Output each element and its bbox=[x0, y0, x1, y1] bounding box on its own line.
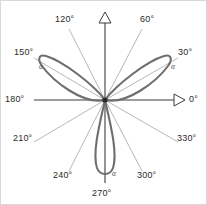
alpha-marker-270: α bbox=[112, 170, 116, 178]
angle-label-150: 150° bbox=[14, 48, 33, 57]
angle-label-0: 0° bbox=[189, 95, 198, 104]
angle-label-270: 270° bbox=[92, 189, 111, 198]
angle-label-30: 30° bbox=[178, 48, 192, 57]
origin-point bbox=[102, 97, 107, 102]
alpha-marker-30: α bbox=[171, 63, 175, 71]
up-arrow-icon bbox=[99, 12, 111, 23]
right-arrow-icon bbox=[174, 94, 185, 106]
angle-label-180: 180° bbox=[5, 95, 24, 104]
petal-30deg bbox=[105, 56, 171, 101]
polar-rose-figure: 0° 30° 60° 120° 150° 180° 210° 240° 270°… bbox=[0, 0, 207, 205]
angle-label-330: 330° bbox=[177, 134, 196, 143]
alpha-marker-150: α bbox=[39, 63, 43, 71]
angle-label-210: 210° bbox=[13, 134, 32, 143]
angle-label-60: 60° bbox=[140, 15, 154, 24]
angle-label-120: 120° bbox=[55, 15, 74, 24]
angle-label-240: 240° bbox=[53, 171, 72, 180]
angle-label-300: 300° bbox=[137, 171, 156, 180]
polar-diagram-canvas bbox=[1, 1, 207, 205]
